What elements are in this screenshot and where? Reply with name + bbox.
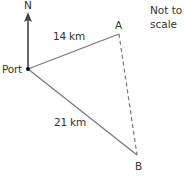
- north-arrow-icon: [24, 12, 32, 69]
- not-to-scale-note: Not to scale: [150, 3, 182, 31]
- note-line-1: Not to: [150, 3, 182, 17]
- port-label: Port: [2, 64, 22, 75]
- edge-port-b-length: 21 km: [54, 117, 86, 128]
- edge-port-a-length: 14 km: [53, 31, 85, 42]
- edge-port-b: [28, 69, 137, 155]
- port-point-icon: [26, 67, 30, 71]
- point-a-label: A: [115, 20, 122, 31]
- edge-a-b-dashed: [119, 34, 137, 155]
- note-line-2: scale: [150, 17, 182, 31]
- point-b-label: B: [135, 161, 142, 172]
- north-label: N: [24, 0, 32, 11]
